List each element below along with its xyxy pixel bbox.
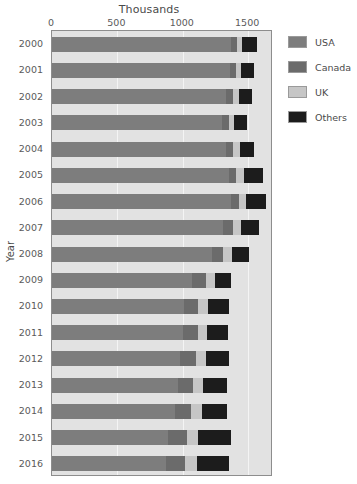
y-axis-tick-label: 2012 <box>19 352 43 363</box>
legend-swatch-icon <box>288 61 307 73</box>
bar-segment[interactable] <box>223 220 233 235</box>
legend-item[interactable]: UK <box>288 81 354 103</box>
bar-segment[interactable] <box>184 299 198 314</box>
bar-segment[interactable] <box>232 247 250 262</box>
bar-segment[interactable] <box>52 247 212 262</box>
bar-segment[interactable] <box>234 115 247 130</box>
legend-item-label: USA <box>315 37 335 48</box>
bar-segment[interactable] <box>244 168 263 183</box>
bar-segment[interactable] <box>246 194 266 209</box>
bar-row[interactable] <box>52 378 271 393</box>
bar-segment[interactable] <box>197 456 229 471</box>
bar-segment[interactable] <box>226 89 233 104</box>
legend-swatch-icon <box>288 86 307 98</box>
bar-segment[interactable] <box>187 430 198 445</box>
y-axis-tick-label: 2010 <box>19 300 43 311</box>
bar-segment[interactable] <box>229 168 237 183</box>
bar-segment[interactable] <box>198 325 207 340</box>
bar-segment[interactable] <box>207 325 228 340</box>
bar-segment[interactable] <box>183 325 198 340</box>
bar-segment[interactable] <box>208 299 228 314</box>
bar-segment[interactable] <box>226 142 233 157</box>
chart-title: Thousands <box>51 3 247 16</box>
bar-row[interactable] <box>52 325 271 340</box>
bar-segment[interactable] <box>52 63 230 78</box>
bar-segment[interactable] <box>239 194 246 209</box>
legend-item[interactable]: USA <box>288 31 354 53</box>
bar-row[interactable] <box>52 194 271 209</box>
x-axis: 050010001500 <box>0 17 357 30</box>
bar-segment[interactable] <box>52 378 178 393</box>
bar-segment[interactable] <box>52 89 226 104</box>
y-axis-tick-label: 2011 <box>19 326 43 337</box>
chart-legend: USACanadaUKOthers <box>288 31 354 131</box>
bar-row[interactable] <box>52 247 271 262</box>
x-axis-tick-label: 1000 <box>170 17 194 28</box>
x-axis-tick-label: 0 <box>48 17 54 28</box>
bar-segment[interactable] <box>192 273 206 288</box>
bar-segment[interactable] <box>52 325 183 340</box>
bar-segment[interactable] <box>52 220 223 235</box>
plot-area <box>51 30 272 476</box>
bar-segment[interactable] <box>202 404 227 419</box>
bar-row[interactable] <box>52 299 271 314</box>
bar-segment[interactable] <box>185 456 197 471</box>
bar-segment[interactable] <box>52 430 168 445</box>
bar-segment[interactable] <box>52 115 222 130</box>
bar-row[interactable] <box>52 351 271 366</box>
bar-row[interactable] <box>52 89 271 104</box>
bar-row[interactable] <box>52 142 271 157</box>
bar-segment[interactable] <box>52 37 231 52</box>
bar-segment[interactable] <box>198 430 231 445</box>
bar-segment[interactable] <box>52 194 231 209</box>
bar-segment[interactable] <box>180 351 196 366</box>
bar-row[interactable] <box>52 115 271 130</box>
bar-row[interactable] <box>52 168 271 183</box>
bar-segment[interactable] <box>231 194 239 209</box>
bar-segment[interactable] <box>233 220 241 235</box>
bar-segment[interactable] <box>52 299 184 314</box>
bar-segment[interactable] <box>198 299 208 314</box>
bar-segment[interactable] <box>240 142 254 157</box>
x-axis-tick-label: 500 <box>107 17 125 28</box>
bar-segment[interactable] <box>168 430 187 445</box>
legend-swatch-icon <box>288 36 307 48</box>
bar-segment[interactable] <box>178 378 194 393</box>
bar-segment[interactable] <box>206 273 215 288</box>
bar-segment[interactable] <box>52 404 175 419</box>
y-axis-tick-label: 2004 <box>19 143 43 154</box>
bar-row[interactable] <box>52 430 271 445</box>
y-axis-title: Year <box>5 232 16 272</box>
bar-segment[interactable] <box>241 220 259 235</box>
bar-segment[interactable] <box>52 273 192 288</box>
bar-segment[interactable] <box>52 456 166 471</box>
y-axis-tick-label: 2005 <box>19 169 43 180</box>
bar-row[interactable] <box>52 273 271 288</box>
bar-segment[interactable] <box>203 378 227 393</box>
bar-segment[interactable] <box>212 247 224 262</box>
legend-item[interactable]: Canada <box>288 56 354 78</box>
legend-item-label: UK <box>315 87 328 98</box>
bar-segment[interactable] <box>196 351 206 366</box>
bar-row[interactable] <box>52 220 271 235</box>
bar-segment[interactable] <box>241 63 254 78</box>
bar-segment[interactable] <box>52 168 229 183</box>
legend-item[interactable]: Others <box>288 106 354 128</box>
bar-segment[interactable] <box>242 37 256 52</box>
bar-row[interactable] <box>52 404 271 419</box>
bar-segment[interactable] <box>52 351 180 366</box>
bar-segment[interactable] <box>223 247 232 262</box>
y-axis-tick-label: 2016 <box>19 457 43 468</box>
bar-segment[interactable] <box>52 142 226 157</box>
bar-row[interactable] <box>52 37 271 52</box>
bar-row[interactable] <box>52 63 271 78</box>
bar-segment[interactable] <box>206 351 229 366</box>
bar-segment[interactable] <box>175 404 191 419</box>
bar-segment[interactable] <box>166 456 186 471</box>
bar-segment[interactable] <box>191 404 201 419</box>
bar-segment[interactable] <box>215 273 231 288</box>
bar-segment[interactable] <box>236 168 243 183</box>
bar-segment[interactable] <box>193 378 203 393</box>
bar-segment[interactable] <box>239 89 252 104</box>
bar-row[interactable] <box>52 456 271 471</box>
